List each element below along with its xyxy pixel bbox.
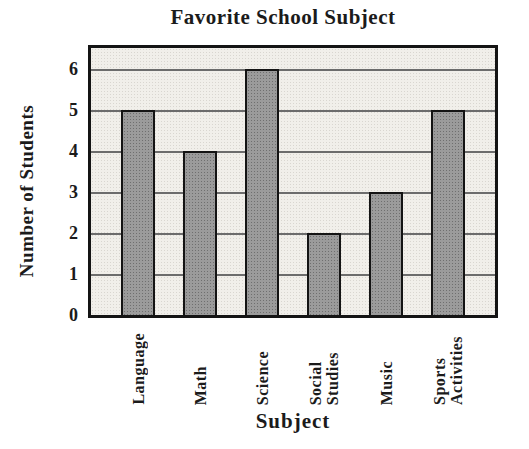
chart-title: Favorite School Subject (78, 5, 488, 30)
bar-slot-science (231, 69, 293, 315)
y-tick-label-5: 5 (69, 99, 78, 121)
bar-slot-math (169, 151, 231, 315)
bar-slot-music (355, 192, 417, 315)
x-tick-label-sports-activities: Sports Activities (431, 336, 465, 405)
y-tick-label-3: 3 (69, 181, 78, 203)
y-tick-label-0: 0 (69, 304, 78, 326)
bar-math (183, 151, 217, 315)
y-axis-ticks: 0123456 (44, 48, 78, 315)
bar-slot-social-studies (293, 233, 355, 315)
bar-slot-sports-activities (417, 110, 479, 315)
y-tick-label-4: 4 (69, 140, 78, 162)
bar-language (121, 110, 155, 315)
bar-sports-activities (431, 110, 465, 315)
bar-music (369, 192, 403, 315)
bar-science (245, 69, 279, 315)
bar-chart: Favorite School Subject Number of Studen… (0, 0, 529, 449)
x-label-slot-math: Math (169, 323, 231, 405)
y-tick-label-6: 6 (69, 58, 78, 80)
bar-slot-language (107, 110, 169, 315)
x-tick-label-science: Science (254, 351, 271, 405)
x-label-slot-science: Science (231, 323, 293, 405)
x-label-slot-social-studies: Social Studies (293, 323, 355, 405)
bar-social-studies (307, 233, 341, 315)
x-label-slot-sports-activities: Sports Activities (417, 323, 479, 405)
x-tick-label-music: Music (378, 361, 395, 405)
y-tick-label-1: 1 (69, 263, 78, 285)
x-tick-label-language: Language (130, 333, 147, 405)
x-axis-title: Subject (88, 409, 498, 434)
x-label-slot-music: Music (355, 323, 417, 405)
x-tick-label-social-studies: Social Studies (307, 352, 341, 405)
y-axis-title: Number of Students (16, 105, 38, 277)
bars-layer (91, 48, 495, 315)
plot-area (88, 45, 498, 318)
x-label-slot-language: Language (107, 323, 169, 405)
x-tick-label-math: Math (192, 366, 209, 405)
y-tick-label-2: 2 (69, 222, 78, 244)
x-axis-labels: LanguageMathScienceSocial StudiesMusicSp… (91, 323, 495, 405)
